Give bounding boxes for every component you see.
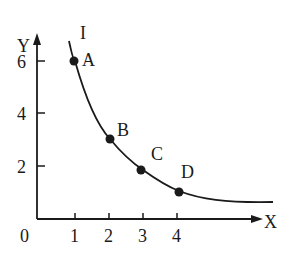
point-label-c: C [151,144,163,164]
origin-label: 0 [20,226,29,246]
y-tick-label-2: 2 [17,157,26,177]
point-d [175,188,184,197]
curve-label: I [80,23,86,43]
x-axis-label: X [264,212,277,232]
point-label-d: D [181,162,194,182]
x-axis-arrow-icon [251,215,263,223]
x-tick-label-1: 1 [70,226,79,246]
point-label-a: A [82,50,95,70]
y-tick-label-4: 4 [17,104,26,124]
curve-i [69,41,273,202]
y-tick-label-6: 6 [17,52,26,72]
x-tick-label-2: 2 [104,226,113,246]
x-tick-label-3: 3 [138,226,147,246]
indifference-curve-chart: I A B C D Y X 0 6 4 2 1 2 3 4 [0,0,299,253]
point-c [137,166,146,175]
point-label-b: B [117,120,129,140]
y-axis-arrow-icon [33,33,41,45]
point-b [106,135,115,144]
x-tick-label-4: 4 [172,226,181,246]
point-a [70,57,79,66]
